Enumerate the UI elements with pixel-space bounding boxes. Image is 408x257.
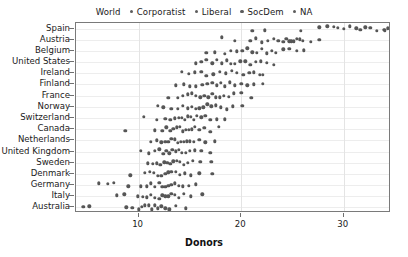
data-point: [220, 61, 223, 64]
gridline-vertical: [139, 23, 140, 211]
data-point: [222, 94, 225, 97]
data-point: [249, 39, 252, 42]
data-point: [250, 96, 253, 99]
y-axis-tick-mark: [69, 206, 74, 207]
x-axis-tick-mark: [343, 213, 344, 217]
data-point: [194, 94, 197, 97]
circle-marker-icon: [130, 10, 133, 13]
data-point: [176, 107, 179, 110]
data-point: [174, 84, 177, 87]
data-point: [139, 185, 142, 188]
data-point: [207, 96, 210, 99]
gridline-horizontal: [76, 207, 389, 208]
gridline-horizontal: [76, 51, 389, 52]
data-point: [167, 194, 170, 197]
data-point: [224, 72, 227, 75]
data-point: [233, 39, 236, 42]
data-point: [326, 25, 329, 28]
data-point: [125, 206, 128, 209]
y-axis-tick-label: Switzerland: [20, 112, 70, 122]
data-point: [211, 61, 214, 64]
data-point: [145, 184, 148, 187]
gridline-horizontal: [76, 140, 389, 141]
y-axis-tick-label: Italy: [51, 190, 70, 200]
data-point: [241, 49, 244, 52]
data-point: [227, 95, 230, 98]
data-point: [204, 114, 207, 117]
data-point: [157, 197, 160, 200]
data-point: [160, 129, 163, 132]
data-point: [214, 95, 217, 98]
data-point: [157, 147, 160, 150]
data-point: [246, 47, 249, 50]
y-axis-tick-label: Austria: [40, 34, 70, 44]
y-axis-tick-label: France: [42, 90, 70, 100]
data-point: [189, 195, 192, 198]
gridline-horizontal: [76, 73, 389, 74]
data-point: [177, 196, 180, 199]
x-axis-tick-label: 20: [235, 219, 246, 229]
data-point: [178, 125, 181, 128]
data-point: [190, 105, 193, 108]
y-axis-tick-label: Spain: [46, 23, 70, 33]
data-point: [205, 74, 208, 77]
data-point: [124, 129, 127, 132]
data-point: [239, 91, 242, 94]
data-point: [242, 73, 245, 76]
legend-item-na[interactable]: NA: [293, 6, 313, 17]
y-axis-tick-label: Denmark: [31, 168, 70, 178]
data-point: [261, 73, 264, 76]
data-point: [129, 174, 132, 177]
legend-label-corporatist: Corporatist: [137, 6, 186, 17]
y-axis-tick-mark: [69, 28, 74, 29]
data-point: [143, 203, 146, 206]
data-point: [197, 128, 200, 131]
data-point: [223, 84, 226, 87]
data-point: [195, 114, 198, 117]
data-point: [153, 185, 156, 188]
data-point: [282, 40, 285, 43]
data-point: [181, 94, 184, 97]
y-axis-tick-label: Norway: [38, 101, 70, 111]
data-point: [145, 195, 148, 198]
data-point: [263, 29, 266, 32]
data-point: [168, 208, 171, 211]
gridline-horizontal: [76, 185, 389, 186]
x-axis-tick-label: 10: [132, 219, 143, 229]
legend-item-corporatist[interactable]: Corporatist: [130, 6, 186, 17]
data-point: [232, 91, 235, 94]
data-point: [173, 116, 176, 119]
y-axis-tick-mark: [69, 39, 74, 40]
legend-item-socdem[interactable]: SocDem: [240, 6, 283, 17]
data-point: [260, 41, 263, 44]
legend-label-na: NA: [300, 6, 312, 17]
data-point: [112, 181, 115, 184]
data-point: [219, 106, 222, 109]
data-point: [301, 39, 304, 42]
data-point: [182, 192, 185, 195]
y-axis-tick-mark: [69, 184, 74, 185]
data-point: [149, 140, 152, 143]
data-point: [194, 62, 197, 65]
data-point: [218, 96, 221, 99]
data-point: [159, 140, 162, 143]
data-point: [187, 72, 190, 75]
data-point: [292, 40, 295, 43]
data-point: [205, 58, 208, 61]
data-point: [190, 92, 193, 95]
plot-area: [75, 22, 390, 212]
scatter-plot-figure: World Corporatist Liberal SocDem NA Spai…: [0, 0, 408, 257]
data-point: [184, 151, 187, 154]
data-point: [155, 118, 158, 121]
data-point: [220, 36, 223, 39]
data-point: [150, 207, 153, 210]
data-point: [131, 206, 134, 209]
data-point: [184, 207, 187, 210]
data-point: [251, 51, 254, 54]
data-point: [215, 118, 218, 121]
legend-item-liberal[interactable]: Liberal: [195, 6, 232, 17]
data-point: [155, 139, 158, 142]
y-axis-tick-label: Belgium: [35, 45, 70, 55]
circle-marker-icon: [240, 10, 243, 13]
data-point: [158, 163, 161, 166]
